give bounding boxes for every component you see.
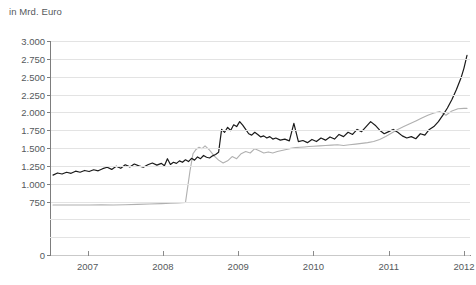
y-tick-label: 2.000 xyxy=(3,107,45,118)
series-line-dark-series xyxy=(53,55,467,175)
y-tick-label: 1.000 xyxy=(3,178,45,189)
x-tick-label: 2012 xyxy=(453,261,474,272)
x-tick-label: 2008 xyxy=(152,261,173,272)
chart-container: in Mrd. Euro 07501.0001.2501.5001.7502.0… xyxy=(0,0,476,285)
gridline xyxy=(50,112,470,113)
y-tick-label: 2.750 xyxy=(3,53,45,64)
y-tick-mark xyxy=(47,95,51,96)
x-tick-label: 2011 xyxy=(378,261,398,272)
x-tick-label: 2007 xyxy=(77,261,98,272)
gridline xyxy=(50,41,470,42)
y-tick-mark xyxy=(47,255,51,256)
y-tick-mark xyxy=(47,77,51,78)
y-tick-label: 1.500 xyxy=(3,143,45,154)
y-tick-label: 2.250 xyxy=(3,89,45,100)
y-tick-label: 2.500 xyxy=(3,71,45,82)
plot-area xyxy=(50,41,470,255)
y-tick-label: 3.000 xyxy=(3,36,45,47)
y-tick-mark xyxy=(47,166,51,167)
y-tick-mark xyxy=(47,202,51,203)
gridline xyxy=(50,77,470,78)
y-tick-label: 0 xyxy=(3,250,45,261)
x-tick-mark xyxy=(238,251,239,256)
gridline xyxy=(50,219,470,220)
x-tick-label: 2010 xyxy=(303,261,324,272)
y-tick-label: 1.750 xyxy=(3,125,45,136)
y-tick-label: 1.250 xyxy=(3,160,45,171)
x-tick-mark xyxy=(389,251,390,256)
y-tick-label: 750 xyxy=(3,196,45,207)
x-tick-mark xyxy=(88,251,89,256)
x-tick-label: 2009 xyxy=(228,261,249,272)
gridline xyxy=(50,202,470,203)
gridline xyxy=(50,148,470,149)
y-tick-mark xyxy=(47,130,51,131)
y-axis-labels: 07501.0001.2501.5001.7502.0002.2502.5002… xyxy=(0,0,45,285)
y-tick-mark xyxy=(47,184,51,185)
x-tick-mark xyxy=(163,251,164,256)
y-tick-mark xyxy=(47,41,51,42)
gridline xyxy=(50,184,470,185)
y-tick-mark xyxy=(47,148,51,149)
x-tick-mark xyxy=(464,251,465,256)
gridline xyxy=(50,130,470,131)
y-tick-mark xyxy=(47,59,51,60)
gridline xyxy=(50,59,470,60)
gridline xyxy=(50,255,470,256)
gridline xyxy=(50,166,470,167)
series-line-light-series xyxy=(53,108,467,205)
x-tick-mark xyxy=(313,251,314,256)
gridline xyxy=(50,237,470,238)
gridline xyxy=(50,95,470,96)
y-tick-mark xyxy=(47,112,51,113)
